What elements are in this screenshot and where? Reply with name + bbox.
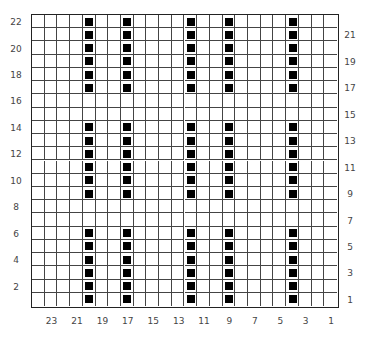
column-label-bottom: 5: [270, 316, 290, 326]
grid-cell: [45, 147, 58, 160]
grid-cell: [134, 174, 147, 187]
grid-cell: [146, 94, 159, 107]
grid-cell: [32, 280, 45, 293]
grid-cell: [32, 293, 45, 306]
grid-cell: [159, 94, 172, 107]
purl-stitch-square: [187, 18, 195, 26]
grid-cell: [57, 28, 70, 41]
grid-cell: [299, 174, 312, 187]
purl-stitch-square: [187, 84, 195, 92]
grid-cell: [70, 213, 83, 226]
purl-stitch-square: [225, 57, 233, 65]
grid-cell: [248, 15, 261, 28]
grid-cell: [197, 280, 210, 293]
grid-cell: [197, 94, 210, 107]
purl-stitch-square: [123, 150, 131, 158]
grid-cell: [134, 266, 147, 279]
purl-stitch-square: [85, 71, 93, 79]
grid-cell: [312, 174, 325, 187]
grid-cell: [235, 266, 248, 279]
grid-cell: [324, 134, 337, 147]
grid-cell: [210, 81, 223, 94]
grid-cell: [45, 108, 58, 121]
row-label-right: 17: [340, 83, 360, 93]
purl-stitch-square: [123, 57, 131, 65]
purl-stitch-square: [123, 18, 131, 26]
grid-cell: [32, 134, 45, 147]
grid-cell: [235, 68, 248, 81]
grid-cell: [248, 240, 261, 253]
purl-stitch-square: [187, 44, 195, 52]
grid-cell: [134, 147, 147, 160]
grid-cell: [32, 94, 45, 107]
row-label-right: 21: [340, 30, 360, 40]
grid-cell: [146, 227, 159, 240]
grid-cell: [146, 187, 159, 200]
grid-cell: [146, 134, 159, 147]
purl-stitch-square: [123, 163, 131, 171]
grid-cell: [197, 15, 210, 28]
grid-cell: [312, 187, 325, 200]
grid-cell: [32, 187, 45, 200]
grid-cell: [235, 28, 248, 41]
grid-cell: [261, 174, 274, 187]
grid-cell: [261, 15, 274, 28]
grid-cell: [299, 94, 312, 107]
grid-cell: [146, 266, 159, 279]
grid-cell: [299, 41, 312, 54]
grid-cell: [70, 253, 83, 266]
grid-cell: [235, 81, 248, 94]
grid-cell: [32, 121, 45, 134]
grid-cell: [299, 293, 312, 306]
purl-stitch-square: [187, 31, 195, 39]
grid-cell: [159, 174, 172, 187]
grid-cell: [45, 161, 58, 174]
row-label-right: 15: [340, 110, 360, 120]
grid-cell: [172, 227, 185, 240]
grid-cell: [32, 81, 45, 94]
grid-cell: [70, 94, 83, 107]
grid-cell: [312, 15, 325, 28]
grid-cell: [70, 28, 83, 41]
purl-stitch-square: [225, 176, 233, 184]
grid-cell: [159, 55, 172, 68]
purl-stitch-square: [187, 242, 195, 250]
purl-stitch-square: [187, 229, 195, 237]
row-label-left: 22: [6, 17, 26, 27]
purl-stitch-square: [85, 84, 93, 92]
grid-cell: [121, 213, 134, 226]
grid-cell: [273, 15, 286, 28]
row-label-right: 5: [340, 242, 360, 252]
grid-cell: [273, 55, 286, 68]
grid-cell: [96, 68, 109, 81]
purl-stitch-square: [289, 18, 297, 26]
grid-cell: [57, 240, 70, 253]
grid-cell: [210, 147, 223, 160]
grid-cell: [210, 41, 223, 54]
grid-cell: [172, 174, 185, 187]
grid-cell: [248, 200, 261, 213]
grid-cell: [197, 81, 210, 94]
grid-cell: [261, 293, 274, 306]
grid-cell: [57, 108, 70, 121]
grid-cell: [108, 293, 121, 306]
grid-cell: [32, 227, 45, 240]
row-label-left: 14: [6, 123, 26, 133]
purl-stitch-square: [123, 31, 131, 39]
grid-cell: [273, 266, 286, 279]
grid-cell: [299, 121, 312, 134]
grid-cell: [45, 200, 58, 213]
grid-cell: [248, 293, 261, 306]
grid-cell: [261, 94, 274, 107]
grid-cell: [248, 121, 261, 134]
grid-cell: [235, 200, 248, 213]
column-label-bottom: 7: [245, 316, 265, 326]
row-label-right: 3: [340, 268, 360, 278]
grid-cell: [159, 227, 172, 240]
row-label-left: 2: [6, 282, 26, 292]
grid-cell: [32, 161, 45, 174]
grid-cell: [210, 108, 223, 121]
grid-cell: [96, 253, 109, 266]
grid-cell: [159, 293, 172, 306]
grid-cell: [57, 200, 70, 213]
